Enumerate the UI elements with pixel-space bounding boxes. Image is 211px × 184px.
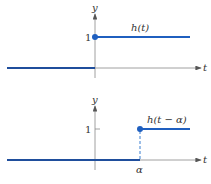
bottom-tick-1: 1	[85, 124, 91, 135]
alpha-label: α	[136, 164, 143, 175]
bottom-function-label: h(t − α)	[147, 114, 187, 125]
bottom-panel: y t 1 h(t − α) α	[7, 94, 208, 175]
bottom-y-label: y	[91, 94, 98, 105]
top-y-label: y	[91, 2, 98, 13]
top-panel: y t 1 h(t)	[7, 2, 208, 78]
top-step-dot	[92, 34, 98, 40]
top-x-label: t	[203, 62, 208, 73]
top-tick-1: 1	[85, 32, 91, 43]
bottom-step-dot	[137, 126, 143, 132]
step-function-diagram: y t 1 h(t) y t 1 h(t − α) α	[0, 0, 211, 184]
bottom-x-label: t	[203, 154, 208, 165]
top-function-label: h(t)	[131, 22, 149, 33]
